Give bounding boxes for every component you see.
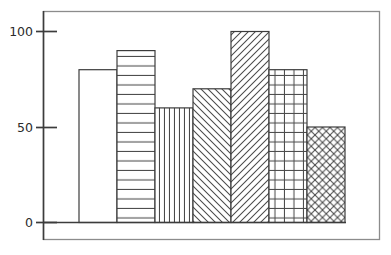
- bars-group: [79, 32, 345, 223]
- chart-canvas: 100 50 0: [0, 0, 391, 255]
- bar-1: [79, 70, 117, 223]
- y-axis-ticks: [36, 32, 57, 223]
- y-tick-label-0: 0: [25, 215, 33, 230]
- bar-6: [269, 70, 307, 223]
- bar-5: [231, 32, 269, 223]
- bar-4: [193, 89, 231, 223]
- bar-7: [307, 127, 345, 223]
- bar-2: [117, 51, 155, 223]
- y-tick-label-50: 50: [17, 120, 33, 135]
- bar-3: [155, 108, 193, 223]
- bar-chart: 100 50 0: [0, 0, 391, 255]
- y-tick-label-100: 100: [9, 24, 33, 39]
